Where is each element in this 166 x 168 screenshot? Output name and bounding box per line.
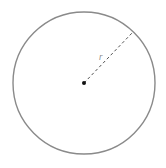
circle-diagram: r <box>0 0 166 168</box>
radius-label: r <box>99 53 103 62</box>
center-point <box>82 81 86 85</box>
radius-line <box>84 32 133 83</box>
